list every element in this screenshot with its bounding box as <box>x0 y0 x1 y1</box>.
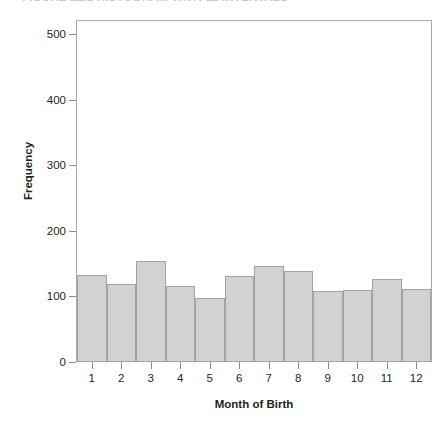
histogram-bar <box>313 291 343 362</box>
histogram-bar <box>225 276 255 362</box>
histogram-bar <box>402 289 432 362</box>
x-axis-tick <box>269 362 270 369</box>
histogram-bar <box>254 266 284 362</box>
y-axis-title: Frequency <box>22 126 34 216</box>
y-axis-tick <box>69 34 76 35</box>
x-axis-tick-label: 1 <box>77 372 107 384</box>
x-axis-tick-label: 2 <box>106 372 136 384</box>
histogram-bar <box>77 275 107 362</box>
y-axis-tick-label: 300 <box>30 159 66 171</box>
bars-layer <box>77 21 431 362</box>
histogram-bar <box>372 279 402 362</box>
histogram-chart: 0100200300400500 123456789101112 Frequen… <box>0 0 447 426</box>
x-axis-tick-label: 11 <box>372 372 402 384</box>
y-axis-tick-label: 200 <box>30 225 66 237</box>
y-axis-tick <box>69 231 76 232</box>
y-axis-tick-label: 400 <box>30 94 66 106</box>
x-axis-tick <box>210 362 211 369</box>
x-axis-tick <box>357 362 358 369</box>
x-axis-tick-label: 3 <box>136 372 166 384</box>
x-axis-tick <box>92 362 93 369</box>
histogram-bar <box>284 271 314 362</box>
histogram-bar <box>195 298 225 362</box>
x-axis-tick-label: 6 <box>224 372 254 384</box>
x-axis-tick <box>298 362 299 369</box>
x-axis-tick <box>151 362 152 369</box>
x-axis-tick-label: 8 <box>283 372 313 384</box>
histogram-bar <box>136 261 166 362</box>
histogram-bar <box>343 290 373 362</box>
x-axis-tick <box>121 362 122 369</box>
histogram-bar <box>166 286 196 362</box>
y-axis-tick <box>69 165 76 166</box>
x-axis-tick <box>180 362 181 369</box>
histogram-bar <box>107 284 137 362</box>
x-axis-tick <box>239 362 240 369</box>
x-axis-title: Month of Birth <box>76 398 432 410</box>
y-axis-tick-label: 100 <box>30 290 66 302</box>
x-axis-tick-label: 5 <box>195 372 225 384</box>
y-axis-tick <box>69 100 76 101</box>
x-axis-tick <box>416 362 417 369</box>
y-axis-tick-label: 500 <box>30 28 66 40</box>
x-axis-tick <box>387 362 388 369</box>
y-axis-tick-label: 0 <box>30 356 66 368</box>
y-axis-tick <box>69 296 76 297</box>
x-axis-tick-label: 7 <box>254 372 284 384</box>
x-axis-tick <box>328 362 329 369</box>
x-axis-tick-label: 4 <box>165 372 195 384</box>
x-axis-tick-label: 12 <box>401 372 431 384</box>
y-axis-tick <box>69 362 76 363</box>
x-axis-tick-label: 9 <box>313 372 343 384</box>
x-axis-tick-label: 10 <box>342 372 372 384</box>
